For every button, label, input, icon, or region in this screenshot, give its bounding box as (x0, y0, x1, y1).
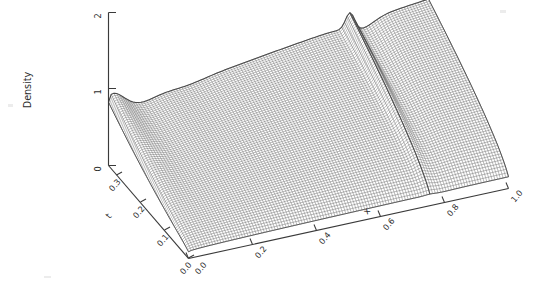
z-axis-title: Density (22, 71, 33, 108)
z-tick-label-1: 1 (93, 89, 103, 94)
z-tick-label-2: 2 (93, 13, 103, 18)
surface-plot-figure: 2 1 0 Density 0.3 0.2 0.1 0.0 t 0.0 0.2 … (0, 0, 548, 286)
figure-background (0, 0, 548, 286)
z-tick-label-0: 0 (93, 166, 103, 171)
